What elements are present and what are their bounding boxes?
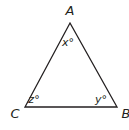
angle-label-y: y° [94,93,107,106]
vertex-label-a: A [65,3,75,18]
triangle-diagram: A B C x° y° z° [0,0,129,130]
vertex-label-c: C [10,106,20,121]
vertex-label-b: B [122,106,129,121]
angle-label-z: z° [27,93,39,106]
angle-label-x: x° [61,36,74,49]
